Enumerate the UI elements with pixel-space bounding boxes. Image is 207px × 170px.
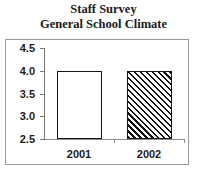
chart-title: Staff Survey [0, 2, 207, 17]
y-tick-0: 4.5 [40, 48, 45, 49]
x-axis-label-2001: 2001 [67, 148, 91, 160]
x-axis-label-2002: 2002 [137, 148, 161, 160]
bar-2002[interactable] [127, 71, 172, 139]
plot-area: 4.5 4.0 3.5 3.0 2.5 [44, 48, 184, 147]
chart-subtitle: General School Climate [0, 17, 207, 32]
y-tick-label-3: 3.0 [20, 110, 35, 122]
chart-page: Staff Survey General School Climate 4.5 … [0, 0, 207, 170]
y-tick-label-0: 4.5 [20, 42, 35, 54]
x-tick-2002 [184, 139, 185, 143]
x-tick-2001 [114, 139, 115, 143]
chart-frame: 4.5 4.0 3.5 3.0 2.5 [5, 39, 189, 165]
y-tick-4: 2.5 [40, 139, 45, 140]
chart-title-block: Staff Survey General School Climate [0, 2, 207, 32]
bar-2001[interactable] [57, 71, 102, 139]
y-tick-label-2: 3.5 [20, 88, 35, 100]
y-tick-label-1: 4.0 [20, 65, 35, 77]
y-tick-2: 3.5 [40, 94, 45, 95]
y-tick-label-4: 2.5 [20, 133, 35, 145]
y-tick-1: 4.0 [40, 71, 45, 72]
y-tick-3: 3.0 [40, 116, 45, 117]
